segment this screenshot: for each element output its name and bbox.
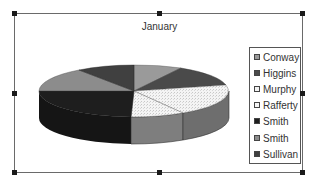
legend-label: Conway <box>263 52 299 63</box>
legend-item: Higgins <box>254 65 296 81</box>
legend-item: Smith <box>254 113 289 129</box>
legend-label: Murphy <box>263 84 296 95</box>
legend-swatch-icon <box>254 118 260 124</box>
legend-label: Rafferty <box>263 100 298 111</box>
pie-side-smith-gray <box>131 113 183 144</box>
chart-object[interactable]: January Conway Higgins <box>14 13 303 173</box>
resize-handle-bottom-left[interactable] <box>12 170 17 175</box>
resize-handle-top-left[interactable] <box>12 11 17 16</box>
resize-handle-left[interactable] <box>12 91 17 96</box>
resize-handle-top[interactable] <box>157 11 162 16</box>
legend-swatch-icon <box>254 151 260 157</box>
legend-swatch-icon <box>254 86 260 92</box>
legend-label: Sullivan <box>263 149 298 160</box>
legend-swatch-icon <box>254 135 260 141</box>
legend-swatch-icon <box>254 54 260 60</box>
resize-handle-bottom-right[interactable] <box>300 170 305 175</box>
legend-item: Conway <box>254 49 299 65</box>
chart-legend[interactable]: Conway Higgins Murphy Rafferty Smith Smi… <box>249 47 301 164</box>
legend-item: Murphy <box>254 81 296 97</box>
legend-item: Sullivan <box>254 146 298 162</box>
legend-label: Smith <box>263 133 289 144</box>
resize-handle-right[interactable] <box>300 91 305 96</box>
legend-item: Smith <box>254 130 289 146</box>
legend-swatch-icon <box>254 102 260 108</box>
legend-label: Smith <box>263 116 289 127</box>
legend-item: Rafferty <box>254 97 298 113</box>
resize-handle-bottom[interactable] <box>157 170 162 175</box>
resize-handle-top-right[interactable] <box>300 11 305 16</box>
legend-swatch-icon <box>254 70 260 76</box>
legend-label: Higgins <box>263 68 296 79</box>
